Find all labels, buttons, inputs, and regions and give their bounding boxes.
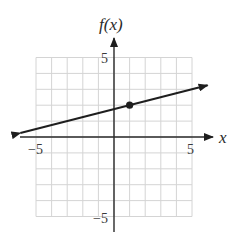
highlighted-point [126, 102, 133, 109]
y-tick-label-neg5: −5 [93, 211, 108, 226]
y-tick-label-5: 5 [101, 51, 108, 66]
y-axis-label: f(x) [99, 15, 123, 34]
x-tick-label-neg5: −5 [28, 142, 43, 157]
function-graph: f(x) x −5 5 5 −5 [0, 0, 241, 239]
x-tick-label-5: 5 [187, 142, 194, 157]
x-axis-label: x [218, 128, 227, 147]
